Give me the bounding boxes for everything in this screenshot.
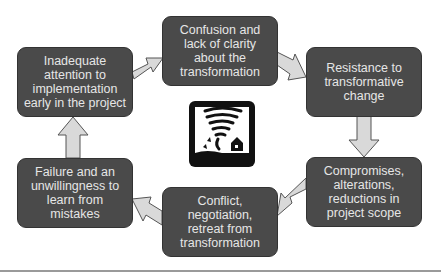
- node-confusion: Confusion and lack of clarity about the …: [162, 16, 278, 86]
- arrow-resistance-to-compromises: [349, 116, 379, 157]
- bottom-divider: [0, 270, 441, 272]
- arrow-failure-to-inadequate: [58, 117, 88, 158]
- node-label: Resistance to transformative change: [311, 61, 417, 103]
- node-failure: Failure and an unwillingness to learn fr…: [17, 158, 133, 228]
- node-label: Conflict, negotiation, retreat from tran…: [166, 194, 274, 250]
- node-label: Confusion and lack of clarity about the …: [167, 23, 273, 79]
- tornado-icon: [187, 99, 257, 169]
- arrow-confusion-to-resistance: [277, 52, 306, 80]
- node-inadequate-attention: Inadequate attention to implementation e…: [17, 47, 133, 117]
- arrow-compromises-to-conflict: [277, 178, 306, 216]
- node-label: Compromises, alterations, reductions in …: [311, 164, 417, 220]
- arrow-conflict-to-failure: [132, 197, 162, 225]
- node-compromises: Compromises, alterations, reductions in …: [306, 157, 422, 227]
- arrow-inadequate-to-confusion: [132, 58, 163, 79]
- node-label: Inadequate attention to implementation e…: [22, 54, 128, 110]
- node-label: Failure and an unwillingness to learn fr…: [22, 165, 128, 221]
- node-conflict: Conflict, negotiation, retreat from tran…: [162, 187, 278, 257]
- node-resistance: Resistance to transformative change: [306, 47, 422, 117]
